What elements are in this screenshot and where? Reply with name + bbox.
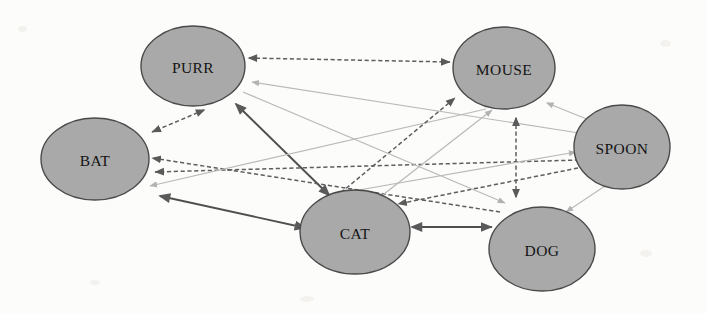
graph-svg: PURRBATMOUSESPOONCATDOG: [0, 0, 706, 314]
node-label-purr: PURR: [172, 59, 214, 76]
node-label-mouse: MOUSE: [476, 61, 532, 78]
node-label-cat: CAT: [340, 225, 371, 242]
edge-dog-spoon: [566, 186, 605, 212]
edge-purr-mouse: [249, 58, 450, 62]
node-spoon[interactable]: SPOON: [574, 105, 670, 189]
node-bat[interactable]: BAT: [41, 118, 149, 200]
edge-cat-spoon: [336, 152, 576, 194]
edge-purr-cat: [236, 104, 330, 196]
node-label-dog: DOG: [525, 242, 560, 259]
diagram-canvas: PURRBATMOUSESPOONCATDOG: [0, 0, 706, 314]
edge-purr-dog-2: [243, 92, 505, 203]
node-layer: PURRBATMOUSESPOONCATDOG: [41, 26, 670, 291]
edge-purr-bat: [152, 110, 204, 132]
edge-spoon-cat-2: [398, 168, 578, 204]
edge-bat-mouse: [150, 109, 486, 186]
edge-bat-cat: [160, 196, 306, 228]
node-dog[interactable]: DOG: [489, 207, 595, 291]
node-label-spoon: SPOON: [596, 140, 649, 157]
node-cat[interactable]: CAT: [300, 190, 410, 274]
node-purr[interactable]: PURR: [141, 26, 245, 106]
node-mouse[interactable]: MOUSE: [453, 27, 555, 109]
node-label-bat: BAT: [80, 152, 111, 169]
